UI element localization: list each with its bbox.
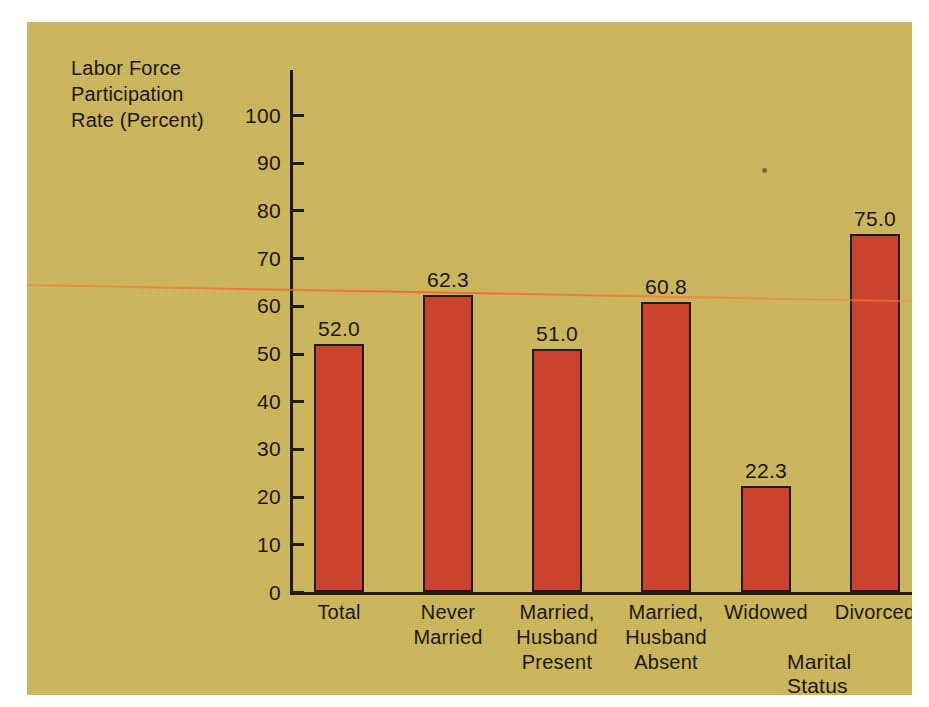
bar-value-label: 60.8 [645,275,687,299]
y-tick-mark [293,543,304,546]
y-tick-mark [293,114,304,117]
y-tick: 0 [290,591,304,594]
y-tick-label: 60 [257,294,281,318]
bar-value-label: 75.0 [854,207,896,231]
bar: 52.0 [314,344,364,592]
x-category-label: Widowed [711,600,821,625]
y-tick: 50 [290,353,304,356]
y-axis-line [290,70,293,595]
y-tick: 80 [290,209,304,212]
y-tick-label: 20 [257,485,281,509]
x-category-label: Divorced [820,600,912,625]
y-tick: 70 [290,257,304,260]
x-category-label: Married, Husband Present [502,600,612,675]
y-tick-label: 70 [257,247,281,271]
bar: 22.3 [741,486,791,592]
bar-value-label: 52.0 [318,317,360,341]
bar: 60.8 [641,302,691,592]
y-tick-label: 100 [245,104,281,128]
y-tick: 30 [290,448,304,451]
x-axis-title: Marital Status [787,650,912,695]
y-tick-mark [293,448,304,451]
y-axis-title: Labor Force Participation Rate (Percent) [71,55,204,133]
y-tick-label: 0 [269,581,281,605]
y-tick: 60 [290,305,304,308]
y-tick-label: 40 [257,390,281,414]
bar-value-label: 22.3 [745,459,787,483]
bar-value-label: 51.0 [536,322,578,346]
y-tick-mark [293,162,304,165]
plot-area: 1009080706050403020100 52.062.351.060.82… [290,70,912,595]
y-tick-mark [293,305,304,308]
y-tick: 90 [290,162,304,165]
chart-figure: Labor Force Participation Rate (Percent)… [0,0,929,707]
y-tick-label: 90 [257,151,281,175]
y-tick-mark [293,400,304,403]
x-axis-line [290,592,912,595]
y-tick-label: 80 [257,199,281,223]
y-tick-mark [293,257,304,260]
y-tick-mark [293,496,304,499]
y-tick-label: 50 [257,342,281,366]
chart-panel: Labor Force Participation Rate (Percent)… [27,22,912,695]
bar: 75.0 [850,234,900,592]
bar: 62.3 [423,295,473,592]
x-category-label: Married, Husband Absent [611,600,721,675]
bar: 51.0 [532,349,582,592]
y-tick-label: 30 [257,437,281,461]
y-tick: 100 [290,114,304,117]
y-tick-mark [293,591,304,594]
y-tick: 10 [290,543,304,546]
x-category-label: Never Married [393,600,503,650]
y-tick-mark [293,353,304,356]
y-tick: 40 [290,400,304,403]
y-tick: 20 [290,496,304,499]
bar-value-label: 62.3 [427,268,469,292]
y-tick-label: 10 [257,533,281,557]
y-tick-mark [293,209,304,212]
x-category-label: Total [284,600,394,625]
